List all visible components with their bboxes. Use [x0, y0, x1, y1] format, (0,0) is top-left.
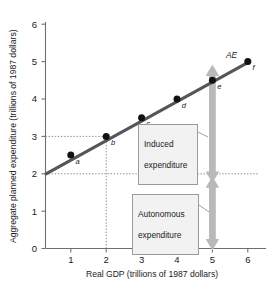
data-point-label-e: e	[217, 82, 221, 91]
autonomous-expenditure-callout: Autonomous expenditure	[132, 194, 199, 255]
x-tick-label-6: 6	[245, 254, 250, 265]
data-point-f	[244, 58, 251, 65]
y-axis-title: Aggregate planned expenditure (trillions…	[8, 29, 18, 243]
ae-series-label: AE	[225, 50, 238, 60]
y-tick-label-0: 0	[32, 243, 37, 254]
y-tick-label-1: 1	[32, 206, 37, 217]
data-point-label-f: f	[253, 63, 256, 72]
data-point-d	[174, 96, 181, 103]
y-tick-label-6: 6	[32, 19, 37, 30]
induced-callout-line-1: Induced	[144, 139, 193, 150]
chart-figure: Aggregate planned expenditure (trillions…	[0, 0, 279, 288]
autonomous-expenditure-arrow	[206, 176, 220, 250]
autonomous-callout-leader	[199, 205, 209, 212]
induced-callout-line-2: expenditure	[144, 160, 193, 171]
y-tick-label-2: 2	[32, 168, 37, 179]
data-point-e	[209, 77, 216, 84]
data-point-label-a: a	[76, 157, 80, 166]
data-point-label-b: b	[111, 138, 115, 147]
x-axis-title: Real GDP (trillions of 1987 dollars)	[86, 269, 218, 279]
data-point-c	[138, 114, 145, 121]
y-tick-label-4: 4	[32, 93, 37, 104]
autonomous-callout-line-1: Autonomous	[138, 209, 194, 220]
x-tick-label-2: 2	[104, 254, 109, 265]
x-tick-label-1: 1	[68, 254, 73, 265]
x-tick-label-3: 3	[139, 254, 144, 265]
data-point-a	[67, 152, 74, 159]
data-point-label-d: d	[182, 101, 187, 110]
induced-callout-leader	[198, 132, 208, 137]
y-tick-label-5: 5	[32, 56, 37, 67]
induced-expenditure-callout: Induced expenditure	[138, 124, 198, 185]
data-point-b	[103, 133, 110, 140]
autonomous-callout-line-2: expenditure	[138, 230, 194, 241]
y-tick-label-3: 3	[32, 131, 37, 142]
x-tick-label-5: 5	[210, 254, 215, 265]
x-tick-label-4: 4	[174, 254, 179, 265]
